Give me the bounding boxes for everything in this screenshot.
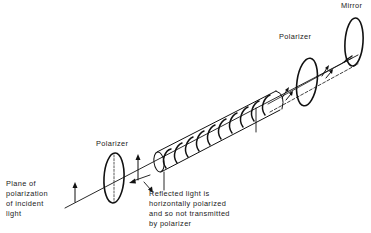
incident-beam-line (65, 55, 358, 208)
plane-label-line-1: Plane of (6, 179, 36, 189)
transmitted-polarization-arrow (136, 154, 141, 180)
diagram-canvas: Mirror Polarizer Polarizer Plane of pola… (0, 0, 371, 233)
reflected-label-line-2: horizontally polarized (149, 199, 226, 209)
cavity-beams (268, 58, 358, 112)
incident-polarization-arrow (73, 182, 78, 202)
reflected-label-line-4: by polarizer (149, 219, 191, 229)
reflected-label-line-3: and so not transmitted (149, 209, 230, 219)
left-polarizer-label: Polarizer (96, 139, 128, 149)
right-polarizer-label: Polarizer (279, 32, 311, 42)
helical-coil (163, 95, 270, 168)
reflected-label-line-1: Reflected light is (149, 189, 210, 199)
plane-label-line-4: light (6, 209, 21, 219)
plane-label-line-3: of incident (6, 199, 44, 209)
laser-tube (153, 91, 283, 190)
mirror-label: Mirror (341, 1, 362, 11)
plane-label-line-2: polarization (6, 189, 48, 199)
